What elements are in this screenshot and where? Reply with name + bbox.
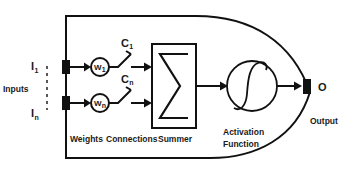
input-label-1-subscript: 1	[35, 67, 39, 74]
weight-label-1-base: W	[94, 63, 102, 72]
connection-switch-1-kink	[126, 51, 131, 54]
weight-label-1-subscript: 1	[102, 66, 106, 73]
weight-label-n-subscript: n	[102, 102, 106, 109]
connection-label-1: C1	[121, 37, 133, 50]
connection-switch-n-kink	[126, 87, 131, 90]
output-terminal-label: O	[318, 81, 327, 93]
connection-label-1-base: C	[121, 37, 129, 49]
neuron-diagram-canvas: I1 In Inputs W1 Wn C1 Cn Weights Connect…	[0, 0, 356, 174]
arrowhead-inputn-to-weightn	[84, 99, 91, 108]
arrowhead-input1-to-weight1	[84, 63, 91, 72]
weight-label-n: Wn	[94, 99, 106, 109]
summer-section-label: Summer	[158, 134, 193, 144]
input-label-n-subscript: n	[35, 114, 39, 121]
connection-label-1-subscript: 1	[129, 43, 133, 50]
output-section-label: Output	[310, 116, 338, 126]
summer-box	[152, 44, 196, 128]
input-terminal-n	[62, 96, 70, 110]
sigmoid-curve	[234, 62, 267, 109]
connection-switch-n	[109, 90, 131, 103]
weight-label-1: W1	[94, 63, 106, 73]
input-label-n: In	[31, 107, 39, 121]
arrowhead-connectionn-to-summer	[144, 99, 152, 108]
connection-label-n-base: C	[121, 73, 129, 85]
connections-section-label: Connections	[106, 134, 158, 144]
activation-section-label-line1: Activation	[223, 127, 264, 137]
activation-section-label-line2: Function	[223, 139, 259, 149]
input-terminal-1	[62, 60, 70, 74]
arrowhead-connection1-to-summer	[144, 63, 152, 72]
connection-label-n: Cn	[121, 73, 134, 86]
arrowhead-activation-to-output	[294, 82, 302, 91]
inputs-group-label: Inputs	[3, 84, 29, 94]
weight-label-n-base: W	[94, 99, 102, 108]
summer-sigma-symbol	[160, 54, 188, 118]
connection-switch-1	[109, 54, 131, 67]
input-label-1: I1	[31, 60, 39, 74]
diagram-svg: I1 In Inputs W1 Wn C1 Cn Weights Connect…	[0, 0, 356, 174]
connection-label-n-subscript: n	[129, 79, 133, 86]
output-terminal	[303, 79, 311, 94]
weights-section-label: Weights	[70, 134, 103, 144]
